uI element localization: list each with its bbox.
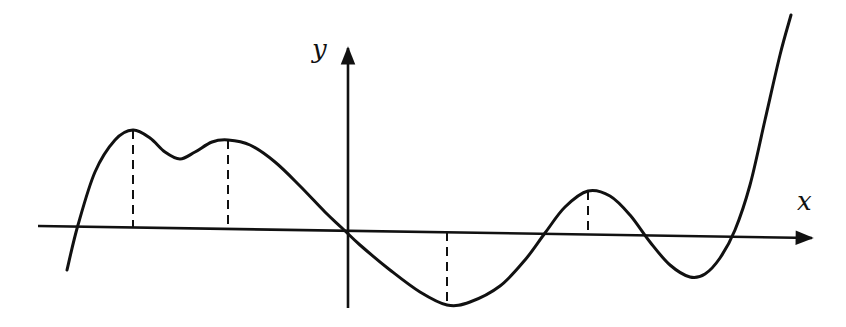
- x-axis: [38, 226, 812, 238]
- x-axis-label: x: [797, 186, 812, 216]
- extrema-dashed-lines: [133, 130, 588, 305]
- function-graph: x y: [0, 0, 846, 327]
- function-curve: [67, 15, 791, 306]
- y-axis-label: y: [311, 34, 327, 64]
